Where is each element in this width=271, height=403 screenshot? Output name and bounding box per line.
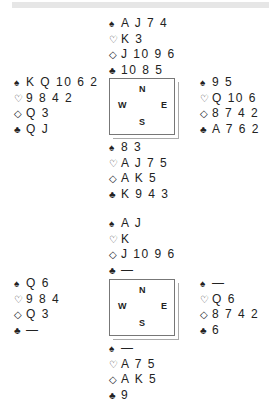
compass-east: E: [161, 301, 167, 311]
diamond-icon: ◇: [109, 248, 121, 263]
diamond-icon: ◇: [109, 48, 121, 63]
compass-north: N: [139, 84, 146, 94]
north-hearts: K 3: [121, 32, 144, 46]
south-diamonds: A K 5: [121, 171, 157, 185]
east-hearts: Q 6: [212, 292, 236, 306]
west-diamonds: Q 3: [26, 307, 50, 321]
west-clubs: Q J: [26, 122, 49, 136]
heart-icon: ♡: [109, 33, 121, 48]
south-hearts: A 7 5: [121, 357, 156, 371]
heart-icon: ♡: [109, 358, 121, 373]
club-icon: ♣: [109, 188, 121, 203]
compass-west: W: [118, 100, 127, 110]
east-diamonds: 8 7 4 2: [212, 106, 259, 120]
heart-icon: ♡: [14, 92, 26, 107]
spade-icon: ♠: [109, 141, 121, 156]
d1-north-hand: ♠A J 7 4 ♡K 3 ◇J 10 9 6 ♣10 8 5: [109, 16, 176, 78]
west-hearts: 9 8 4 2: [26, 91, 73, 105]
d2-compass: N W E S: [109, 279, 175, 336]
spade-icon: ♠: [109, 342, 121, 357]
diamond-icon: ◇: [14, 308, 26, 323]
compass-north: N: [139, 285, 146, 295]
south-clubs: 9: [121, 388, 129, 402]
d2-south-hand: ♠— ♡A 7 5 ◇A K 5 ♣9: [109, 341, 157, 403]
d1-west-hand: ♠K Q 10 6 2 ♡9 8 4 2 ◇Q 3 ♣Q J: [14, 75, 98, 137]
south-spades: 8 3: [121, 140, 142, 154]
west-spades: Q 6: [26, 276, 50, 290]
d1-south-hand: ♠8 3 ♡A J 7 5 ◇A K 5 ♣K 9 4 3: [109, 140, 170, 202]
east-diamonds: 8 7 4 2: [212, 307, 259, 321]
compass-west: W: [118, 301, 127, 311]
diamond-icon: ◇: [200, 308, 212, 323]
east-clubs: A 7 6 2: [212, 122, 260, 136]
heart-icon: ♡: [200, 293, 212, 308]
d2-east-hand: ♠— ♡Q 6 ◇8 7 4 2 ♣6: [200, 276, 259, 338]
heart-icon: ♡: [200, 92, 212, 107]
east-spades: —: [212, 276, 226, 290]
d2-west-hand: ♠Q 6 ♡9 8 4 ◇Q 3 ♣—: [14, 276, 60, 338]
heart-icon: ♡: [109, 233, 121, 248]
north-clubs: —: [121, 263, 135, 277]
compass-south: S: [139, 117, 145, 127]
east-hearts: Q 10 6: [212, 91, 257, 105]
spade-icon: ♠: [200, 76, 212, 91]
heart-icon: ♡: [109, 157, 121, 172]
south-hearts: A J 7 5: [121, 156, 168, 170]
compass-east: E: [161, 100, 167, 110]
club-icon: ♣: [200, 324, 212, 339]
diamond-icon: ◇: [109, 172, 121, 187]
west-clubs: —: [26, 323, 40, 337]
heart-icon: ♡: [14, 293, 26, 308]
diamond-icon: ◇: [14, 107, 26, 122]
diamond-icon: ◇: [200, 107, 212, 122]
spade-icon: ♠: [14, 76, 26, 91]
west-hearts: 9 8 4: [26, 292, 60, 306]
north-hearts: K: [121, 232, 131, 246]
north-spades: A J 7 4: [121, 16, 168, 30]
club-icon: ♣: [109, 64, 121, 79]
compass-south: S: [139, 318, 145, 328]
spade-icon: ♠: [109, 217, 121, 232]
west-spades: K Q 10 6 2: [26, 75, 98, 89]
north-diamonds: J 10 9 6: [121, 247, 176, 261]
south-diamonds: A K 5: [121, 372, 157, 386]
club-icon: ♣: [200, 123, 212, 138]
d1-compass: N W E S: [109, 78, 175, 135]
north-spades: A J: [121, 216, 142, 230]
club-icon: ♣: [14, 123, 26, 138]
spade-icon: ♠: [109, 17, 121, 32]
east-spades: 9 5: [212, 75, 233, 89]
south-clubs: K 9 4 3: [121, 187, 170, 201]
spade-icon: ♠: [14, 277, 26, 292]
top-bar: [12, 2, 269, 8]
spade-icon: ♠: [200, 277, 212, 292]
diamond-icon: ◇: [109, 373, 121, 388]
club-icon: ♣: [109, 264, 121, 279]
d1-east-hand: ♠9 5 ♡Q 10 6 ◇8 7 4 2 ♣A 7 6 2: [200, 75, 260, 137]
north-clubs: 10 8 5: [121, 63, 163, 77]
north-diamonds: J 10 9 6: [121, 47, 176, 61]
east-clubs: 6: [212, 323, 220, 337]
d2-north-hand: ♠A J ♡K ◇J 10 9 6 ♣—: [109, 216, 176, 278]
west-diamonds: Q 3: [26, 106, 50, 120]
south-spades: —: [121, 341, 135, 355]
club-icon: ♣: [14, 324, 26, 339]
club-icon: ♣: [109, 389, 121, 403]
